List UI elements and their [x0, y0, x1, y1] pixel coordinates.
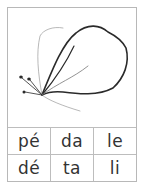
syllable-card: pé da le dé ta li: [7, 7, 137, 182]
syllable-cell: ta: [51, 154, 94, 181]
syllable-cell: li: [94, 154, 136, 181]
syllable-cell: dé: [8, 154, 51, 181]
syllable-cell: le: [94, 127, 136, 154]
syllable-cell: pé: [8, 127, 51, 154]
syllable-grid: pé da le dé ta li: [8, 127, 136, 181]
syllable-cell: da: [51, 127, 94, 154]
flower-illustration-icon: [8, 8, 136, 127]
